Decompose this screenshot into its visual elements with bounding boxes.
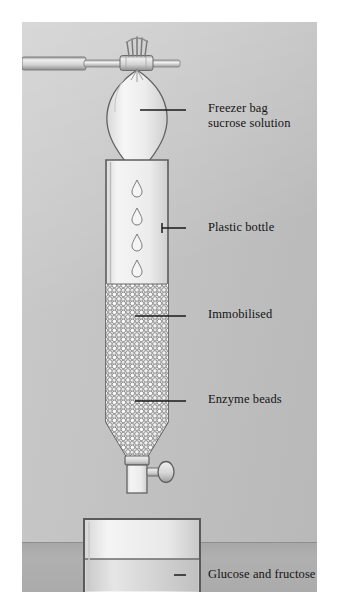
figure-canvas: Freezer bag sucrose solution Plastic bot… <box>0 0 337 614</box>
label-glucose-and-fructose: Glucose and fructose <box>208 567 316 582</box>
label-immobilised: Immobilised <box>208 307 272 322</box>
bag-neck-icon <box>126 37 148 56</box>
label-freezer-bag: Freezer bag sucrose solution <box>208 101 291 131</box>
outlet-tap[interactable] <box>125 456 174 493</box>
freezer-bag <box>107 70 167 174</box>
collection-beaker <box>84 519 200 592</box>
label-freezer-bag-line1: Freezer bag <box>208 101 291 116</box>
label-freezer-bag-line2: sucrose solution <box>208 116 291 131</box>
label-enzyme-beads: Enzyme beads <box>208 392 282 407</box>
clamp-arm-icon <box>22 56 180 71</box>
label-plastic-bottle: Plastic bottle <box>208 220 274 235</box>
enzyme-bead-bed <box>106 284 168 462</box>
illustration-panel: Freezer bag sucrose solution Plastic bot… <box>22 22 317 592</box>
